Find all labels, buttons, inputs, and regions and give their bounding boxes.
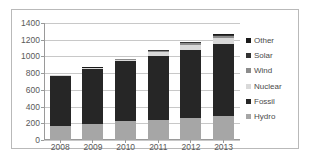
y-axis-tick-label: 1400 [21, 18, 40, 28]
stacked-bar[interactable] [82, 67, 103, 140]
chart-legend: OtherSolarWindNuclearFossilHydro [246, 36, 306, 121]
bar-segment-hydro[interactable] [213, 116, 234, 140]
bar-group-2011[interactable] [142, 23, 175, 140]
y-axis-tick-label: 200 [26, 118, 40, 128]
bar-segment-hydro[interactable] [50, 126, 71, 140]
plot-area: 0200400600800100012001400 [44, 23, 240, 140]
x-axis-label-2012: 2012 [175, 142, 208, 152]
stacked-bar[interactable] [180, 42, 201, 140]
legend-swatch-icon [246, 84, 251, 89]
bar-group-2008[interactable] [44, 23, 77, 140]
gridline [44, 140, 240, 141]
y-axis-tick-label: 800 [26, 68, 40, 78]
legend-item-other[interactable]: Other [246, 36, 306, 45]
bar-segment-hydro[interactable] [82, 124, 103, 140]
legend-label: Hydro [254, 112, 275, 121]
bar-segment-fossil[interactable] [115, 61, 136, 121]
legend-swatch-icon [246, 38, 251, 43]
legend-swatch-icon [246, 99, 251, 104]
bar-group-2013[interactable] [207, 23, 240, 140]
bar-group-2009[interactable] [77, 23, 110, 140]
stacked-bar[interactable] [148, 50, 169, 140]
legend-label: Other [254, 36, 274, 45]
bar-segment-hydro[interactable] [180, 118, 201, 140]
bar-segment-fossil[interactable] [50, 76, 71, 126]
x-axis-label-2011: 2011 [142, 142, 175, 152]
bar-segment-fossil[interactable] [82, 69, 103, 124]
stacked-bar[interactable] [115, 59, 136, 140]
bar-group-2010[interactable] [109, 23, 142, 140]
legend-label: Fossil [254, 97, 275, 106]
legend-label: Nuclear [254, 82, 282, 91]
y-axis-tick-label: 0 [35, 135, 40, 145]
legend-item-fossil[interactable]: Fossil [246, 97, 306, 106]
legend-item-solar[interactable]: Solar [246, 51, 306, 60]
y-axis-tick-label: 600 [26, 85, 40, 95]
legend-item-nuclear[interactable]: Nuclear [246, 82, 306, 91]
legend-item-wind[interactable]: Wind [246, 66, 306, 75]
bar-segment-fossil[interactable] [213, 44, 234, 116]
stacked-bar[interactable] [213, 34, 234, 140]
legend-swatch-icon [246, 53, 251, 58]
legend-swatch-icon [246, 68, 251, 73]
x-axis-labels: 200820092010201120122013 [44, 142, 240, 152]
y-axis-tick-label: 1200 [21, 35, 40, 45]
chart-container: 0200400600800100012001400 20082009201020… [0, 0, 313, 165]
x-axis-label-2010: 2010 [109, 142, 142, 152]
stacked-bar[interactable] [50, 75, 71, 140]
bar-segment-hydro[interactable] [148, 120, 169, 140]
x-axis-label-2013: 2013 [207, 142, 240, 152]
bar-group-2012[interactable] [175, 23, 208, 140]
y-axis-tick-label: 1000 [21, 51, 40, 61]
y-axis-tick-label: 400 [26, 102, 40, 112]
y-axis-tick-mark [41, 140, 44, 141]
bar-segment-hydro[interactable] [115, 121, 136, 140]
legend-label: Solar [254, 51, 273, 60]
legend-swatch-icon [246, 114, 251, 119]
legend-label: Wind [254, 66, 272, 75]
x-axis-label-2008: 2008 [44, 142, 77, 152]
legend-item-hydro[interactable]: Hydro [246, 112, 306, 121]
bar-segment-fossil[interactable] [148, 56, 169, 120]
bar-segment-fossil[interactable] [180, 50, 201, 118]
x-axis-label-2009: 2009 [77, 142, 110, 152]
bar-series-group [44, 23, 240, 140]
